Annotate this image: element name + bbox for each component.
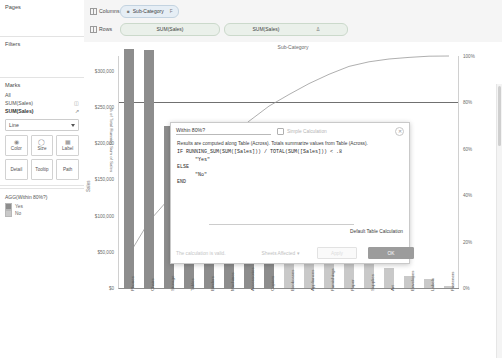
columns-shelf[interactable]: Columns ■ Sub-Category F (90, 4, 502, 18)
columns-label: Columns (99, 8, 119, 14)
apply-button[interactable]: Apply (317, 247, 357, 259)
viz-vertical-scrollbar[interactable] (496, 84, 502, 358)
pill-label: SUM(Sales) (157, 26, 184, 32)
y-axis-tick: $50,000 (97, 249, 114, 254)
rows-shelf[interactable]: Rows SUM(Sales) SUM(Sales) Δ (90, 22, 502, 36)
bar-mark[interactable] (144, 50, 153, 288)
filters-shelf[interactable]: Filters (0, 37, 84, 78)
x-axis-tick-label[interactable]: Accessories (250, 267, 255, 291)
simple-calculation-checkbox[interactable]: Simple Calculation (277, 128, 327, 135)
mark-type-dropdown[interactable]: Line (5, 119, 79, 131)
pages-label: Pages (5, 4, 79, 10)
legend-item-label: Yes (15, 204, 23, 209)
legend-swatch (5, 203, 12, 210)
marks-item-sum-sales-line[interactable]: SUM(Sales) ↗ (5, 107, 79, 115)
bar-chart-icon: ◫ (74, 99, 79, 107)
size-card-label: Size (38, 146, 47, 152)
dialog-footer: The calculation is valid. Sheets Affecte… (171, 243, 419, 263)
y-axis-tick: $100,000 (95, 213, 114, 218)
calculation-name-input[interactable]: Within 80%? (176, 127, 271, 135)
color-card-label: Color (11, 146, 22, 152)
x-axis-tick-label[interactable]: Bookcases (290, 270, 295, 291)
simple-calculation-label: Simple Calculation (287, 129, 327, 134)
marks-encoding-grid: ◉ Color ◯ Size ▦ Label Detail Tooltip (5, 135, 79, 180)
x-axis-tick-label[interactable]: Labels (430, 278, 435, 291)
y2-axis-tick: 80% (463, 100, 472, 105)
y-axis-tick: $0 (109, 286, 114, 291)
y-axis-left-title: Sales (86, 181, 91, 193)
marks-sidebar: Pages Filters Marks All SUM(Sales) ◫ SUM… (0, 0, 85, 316)
calculation-note: Results are computed along Table (Across… (171, 139, 409, 147)
close-icon[interactable]: ✕ (395, 127, 404, 136)
label-card-button[interactable]: ▦ Label (56, 135, 79, 156)
x-axis-tick-label[interactable]: Supplies (370, 274, 375, 291)
y2-axis-tick: 0% (463, 286, 470, 291)
size-icon: ◯ (38, 139, 45, 146)
formula-editor[interactable]: IF RUNNING_SUM(SUM([Sales])) / TOTAL(SUM… (171, 147, 409, 187)
y2-axis-tick: 40% (463, 193, 472, 198)
pages-shelf[interactable]: Pages (0, 0, 84, 37)
detail-card-button[interactable]: Detail (5, 159, 28, 180)
x-axis-tick-label[interactable]: Copiers (270, 276, 275, 291)
line-chart-icon: ↗ (75, 107, 79, 115)
chevron-down-icon: ▾ (297, 251, 300, 256)
dialog-divider (209, 224, 354, 225)
marks-card: Marks All SUM(Sales) ◫ SUM(Sales) ↗ Line… (0, 78, 84, 186)
x-axis-tick-label[interactable]: Binders (210, 276, 215, 291)
marks-item-all[interactable]: All (5, 91, 79, 99)
x-axis-tick-label[interactable]: Furnishings (330, 268, 335, 291)
color-card-button[interactable]: ◉ Color (5, 135, 28, 156)
marks-item-sum-sales-bar[interactable]: SUM(Sales) ◫ (5, 99, 79, 107)
rows-shelf-label-wrap: Rows (90, 26, 120, 33)
x-axis-tick-label[interactable]: Phones (130, 276, 135, 291)
filters-label: Filters (5, 41, 79, 47)
ok-button[interactable]: OK (368, 247, 414, 259)
shelves-bar: Columns ■ Sub-Category F Rows SUM(Sales)… (84, 0, 502, 43)
y2-axis-tick: 60% (463, 146, 472, 151)
x-axis-categories: PhonesChairsStorageTablesBindersMachines… (118, 289, 458, 349)
table-calculation-dialog: Within 80%? Simple Calculation ✕ Results… (170, 122, 410, 264)
x-axis-tick-label[interactable]: Appliances (310, 270, 315, 291)
x-axis-tick-label[interactable]: Paper (350, 279, 355, 291)
x-axis-tick-label[interactable]: Tables (190, 278, 195, 291)
marks-item-label: SUM(Sales) (5, 107, 34, 115)
sheets-affected-dropdown[interactable]: Sheets Affected ▾ (262, 251, 301, 256)
marks-item-label: SUM(Sales) (5, 99, 33, 107)
table-calc-delta-icon: Δ (316, 27, 319, 32)
tooltip-card-button[interactable]: Tooltip (31, 159, 54, 180)
scrollbar-thumb[interactable] (498, 86, 501, 146)
tooltip-card-label: Tooltip (35, 167, 48, 173)
dialog-header: Within 80%? Simple Calculation ✕ (171, 123, 409, 139)
y2-axis-tick: 100% (463, 54, 475, 59)
color-icon: ◉ (14, 139, 19, 146)
label-card-label: Label (62, 146, 73, 152)
chevron-down-icon (71, 124, 75, 127)
pill-sum-sales-1[interactable]: SUM(Sales) (120, 23, 220, 36)
pill-label: SUM(Sales) (252, 26, 279, 32)
x-axis-tick-label[interactable]: Art (390, 285, 395, 291)
color-legend: AGG(Within 80%?) Yes No (0, 188, 84, 222)
rows-label: Rows (99, 26, 112, 32)
legend-item-no[interactable]: No (5, 210, 79, 217)
marks-title: Marks (5, 82, 79, 88)
legend-swatch (5, 210, 12, 217)
sheets-affected-label: Sheets Affected (262, 251, 296, 256)
x-axis-tick-label[interactable]: Envelopes (410, 270, 415, 291)
validation-status: The calculation is valid. (176, 251, 226, 256)
label-icon: ▦ (65, 139, 71, 146)
legend-item-yes[interactable]: Yes (5, 203, 79, 210)
dimension-icon: ■ (127, 9, 130, 14)
pill-sub-category[interactable]: ■ Sub-Category F (120, 5, 179, 18)
x-axis-tick-label[interactable]: Machines (230, 272, 235, 291)
checkbox-icon[interactable] (277, 128, 284, 135)
x-axis-tick-label[interactable]: Storage (170, 276, 175, 291)
x-axis-tick-label[interactable]: Chairs (150, 278, 155, 291)
sort-icon[interactable]: F (170, 9, 173, 14)
bar-mark[interactable] (124, 49, 133, 288)
x-axis-tick-label[interactable]: Fasteners (450, 271, 455, 291)
default-table-calculation-link[interactable]: Default Table Calculation (350, 229, 403, 234)
path-card-button[interactable]: Path (56, 159, 79, 180)
pill-sum-sales-2[interactable]: SUM(Sales) Δ (224, 23, 348, 36)
size-card-button[interactable]: ◯ Size (31, 135, 54, 156)
